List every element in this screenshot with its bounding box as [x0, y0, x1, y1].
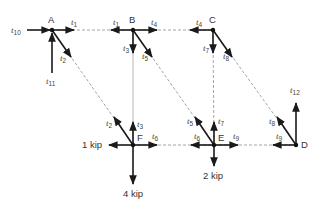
joint-e	[212, 143, 216, 147]
joint-label-d: D	[301, 139, 308, 150]
force-label-t1-a: t1	[71, 17, 78, 28]
load-label-4kip: 4 kip	[123, 188, 143, 199]
joint-label-f: F	[137, 132, 143, 143]
force-label-t6-e: t6	[194, 131, 201, 142]
force-label-t2-f: t2	[106, 118, 113, 129]
force-label-t12: t12	[290, 85, 300, 96]
joint-label-c: C	[209, 14, 216, 25]
force-label-t4-b: t4	[151, 17, 158, 28]
force-label-t2-a: t2	[60, 53, 67, 64]
joint-labels: A B C F E D	[48, 14, 308, 150]
force-label-t6-f: t6	[152, 131, 159, 142]
force-label-t7-e: t7	[218, 116, 225, 127]
joint-c-forces	[190, 30, 232, 57]
joint-b	[131, 28, 135, 32]
joint-label-e: E	[218, 132, 224, 143]
force-label-t9-d: t9	[276, 131, 283, 142]
joint-label-a: A	[48, 14, 55, 25]
force-label-t5-e: t5	[187, 116, 194, 127]
joint-a-forces	[27, 30, 74, 73]
force-label-t9-e: t9	[233, 131, 240, 142]
joint-d	[294, 143, 298, 147]
force-label-t10: t10	[11, 25, 21, 36]
joint-label-b: B	[129, 14, 135, 25]
load-label-2kip: 2 kip	[203, 170, 223, 181]
joint-f-forces	[109, 117, 157, 184]
force-labels: t10 t11 t1 t2 t1 t4 t3 t5 t4 t7 t8 t2 t3…	[11, 17, 300, 142]
force-label-t5-b: t5	[142, 51, 149, 62]
force-label-t4-c: t4	[196, 17, 203, 28]
force-label-t3-b: t3	[123, 43, 130, 54]
load-label-1kip: 1 kip	[82, 139, 102, 150]
force-label-t1-b: t1	[113, 17, 120, 28]
force-label-t8-d: t8	[269, 116, 276, 127]
load-labels: 1 kip 4 kip 2 kip	[82, 139, 223, 199]
force-arrow-t2-f	[114, 117, 133, 145]
joint-a	[50, 28, 54, 32]
truss-members	[52, 30, 296, 145]
joint-f	[131, 143, 135, 147]
joint-b-forces	[111, 30, 157, 57]
truss-diagram: A B C F E D t10 t11 t1 t2 t1 t4 t3 t5 t4…	[0, 0, 317, 209]
force-label-t11: t11	[46, 76, 56, 87]
force-label-t3-f: t3	[137, 119, 144, 130]
joint-c	[211, 28, 215, 32]
force-label-t7-c: t7	[203, 43, 210, 54]
